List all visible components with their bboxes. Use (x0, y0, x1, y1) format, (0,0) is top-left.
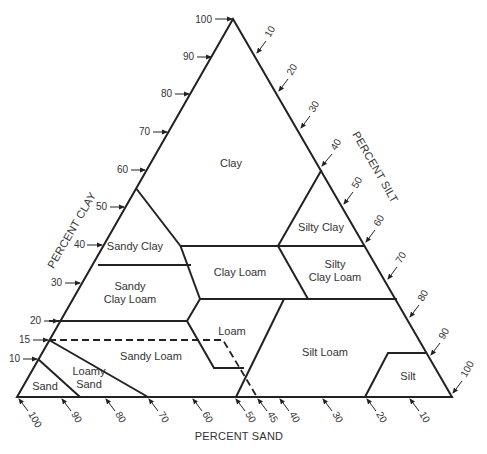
svg-text:100: 100 (458, 359, 476, 379)
svg-text:90: 90 (436, 325, 451, 341)
svg-text:80: 80 (161, 88, 173, 99)
region-silty-clay-loam-2: Clay Loam (309, 271, 362, 283)
svg-text:90: 90 (69, 410, 84, 426)
svg-text:20: 20 (30, 315, 42, 326)
svg-text:15: 15 (19, 334, 31, 345)
region-silt: Silt (400, 370, 415, 382)
region-sandy-clay: Sandy Clay (107, 240, 164, 252)
sand-axis-title: PERCENT SAND (195, 430, 283, 442)
region-loam: Loam (218, 325, 246, 337)
region-clay-loam: Clay Loam (214, 266, 267, 278)
region-loamy-sand: Loamy (72, 365, 106, 377)
svg-text:20: 20 (284, 61, 299, 77)
svg-text:60: 60 (371, 212, 386, 228)
svg-text:90: 90 (183, 51, 195, 62)
region-sandy-loam: Sandy Loam (120, 350, 182, 362)
svg-text:45: 45 (265, 410, 280, 426)
svg-text:100: 100 (195, 14, 212, 25)
svg-text:20: 20 (374, 410, 389, 426)
sand-axis-ticks: 100 90 80 70 60 50 45 40 30 20 10 (19, 399, 433, 430)
svg-text:80: 80 (113, 410, 128, 426)
region-silty-clay-loam: Silty (325, 258, 346, 270)
svg-text:60: 60 (200, 410, 215, 426)
svg-text:30: 30 (330, 410, 345, 426)
region-sandy-clay-loam-2: Clay Loam (104, 293, 157, 305)
svg-text:60: 60 (117, 164, 129, 175)
clay-axis-ticks: 100 90 80 70 60 50 40 30 20 15 10 (9, 14, 232, 364)
svg-text:50: 50 (96, 201, 108, 212)
svg-text:50: 50 (243, 410, 258, 426)
svg-text:30: 30 (306, 98, 321, 114)
svg-text:40: 40 (74, 239, 86, 250)
svg-text:40: 40 (287, 410, 302, 426)
svg-text:50: 50 (349, 174, 364, 190)
svg-text:10: 10 (417, 410, 432, 426)
svg-text:100: 100 (26, 410, 44, 430)
svg-text:40: 40 (328, 136, 343, 152)
svg-text:70: 70 (393, 249, 408, 265)
region-silt-loam: Silt Loam (302, 346, 348, 358)
region-silty-clay: Silty Clay (298, 221, 344, 233)
region-loamy-sand-2: Sand (76, 378, 102, 390)
svg-text:80: 80 (415, 287, 430, 303)
region-sand: Sand (32, 380, 58, 392)
clay-axis-title: PERCENT CLAY (45, 189, 98, 270)
svg-text:70: 70 (156, 410, 171, 426)
silt-axis-ticks: 10 20 30 40 50 60 70 80 90 100 (257, 23, 476, 393)
svg-text:10: 10 (9, 353, 21, 364)
svg-text:30: 30 (51, 277, 63, 288)
region-clay: Clay (220, 157, 243, 169)
svg-text:10: 10 (262, 23, 277, 39)
silt-axis-title: PERCENT SILT (350, 129, 401, 205)
soil-texture-triangle: 100 90 80 70 60 50 40 30 20 15 10 PERCEN… (0, 0, 487, 454)
region-sandy-clay-loam: Sandy (114, 280, 146, 292)
svg-text:70: 70 (139, 126, 151, 137)
